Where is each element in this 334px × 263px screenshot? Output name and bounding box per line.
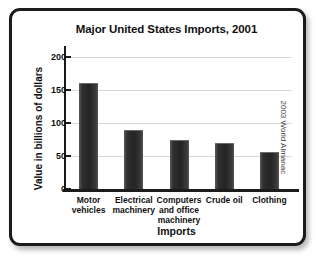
y-tick-label-0: 0 [32, 184, 66, 194]
y-tick-label-150: 150 [32, 85, 66, 95]
y-tick-mark-100 [66, 122, 71, 124]
x-category-label-line: Clothing [240, 195, 298, 205]
y-axis-ticks: 050100150200 [22, 11, 66, 263]
x-category-label-4: Clothing [240, 195, 298, 205]
bar-4 [260, 152, 279, 189]
x-category-label-line: and office [150, 205, 208, 215]
bar-2 [170, 140, 189, 189]
source-credit: 2003 World Almanac [279, 101, 288, 205]
y-tick-mark-0 [66, 188, 71, 190]
gridline-200 [66, 57, 292, 58]
plot-area [66, 47, 292, 189]
x-category-label-line: machinery [150, 215, 208, 225]
y-tick-mark-150 [66, 89, 71, 91]
y-tick-label-200: 200 [32, 52, 66, 62]
bar-3 [215, 143, 234, 189]
bar-1 [124, 130, 143, 189]
x-axis-baseline [63, 189, 299, 192]
chart-figure-card: Major United States Imports, 2001 Value … [9, 8, 306, 246]
gridline-150 [66, 90, 292, 91]
y-tick-mark-50 [66, 155, 71, 157]
y-tick-label-50: 50 [32, 151, 66, 161]
gridline-100 [66, 123, 292, 124]
x-axis-title: Imports [64, 225, 289, 237]
bar-0 [79, 83, 98, 189]
y-tick-mark-200 [66, 56, 71, 58]
y-tick-label-100: 100 [32, 118, 66, 128]
